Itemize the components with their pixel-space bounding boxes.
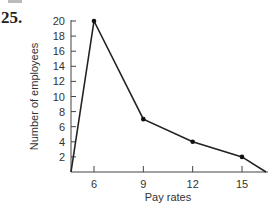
y-tick-label: 16 <box>53 45 65 57</box>
data-point <box>141 117 146 122</box>
y-tick-label: 18 <box>53 30 65 42</box>
x-tick-label: 12 <box>187 178 199 190</box>
x-axis-label: Pay rates <box>145 191 192 203</box>
y-tick-label: 20 <box>53 15 65 27</box>
frequency-polygon-chart: 2468101214161820691215Pay ratesNumber of… <box>0 0 272 208</box>
y-tick-label: 6 <box>59 121 65 133</box>
data-point <box>240 155 245 160</box>
data-point <box>92 19 97 24</box>
y-axis-label: Number of employees <box>28 42 40 150</box>
y-tick-label: 4 <box>59 136 65 148</box>
x-tick-label: 6 <box>91 178 97 190</box>
y-tick-label: 8 <box>59 106 65 118</box>
data-line <box>71 21 266 172</box>
y-tick-label: 14 <box>53 60 65 72</box>
x-tick-label: 15 <box>236 178 248 190</box>
x-tick-label: 9 <box>140 178 146 190</box>
y-tick-label: 2 <box>59 151 65 163</box>
y-tick-label: 12 <box>53 75 65 87</box>
data-point <box>190 140 195 145</box>
y-tick-label: 10 <box>53 91 65 103</box>
